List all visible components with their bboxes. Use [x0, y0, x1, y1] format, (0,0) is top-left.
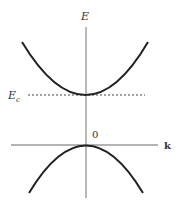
momentum-axis-label: k [164, 140, 172, 151]
conduction-band-curve [22, 42, 148, 95]
energy-axis-label: E [80, 10, 89, 23]
conduction-edge-subscript: c [16, 96, 20, 104]
band-diagram: E k 0 E c [0, 0, 182, 202]
conduction-edge-label: E [7, 89, 16, 102]
origin-label: 0 [92, 129, 98, 140]
